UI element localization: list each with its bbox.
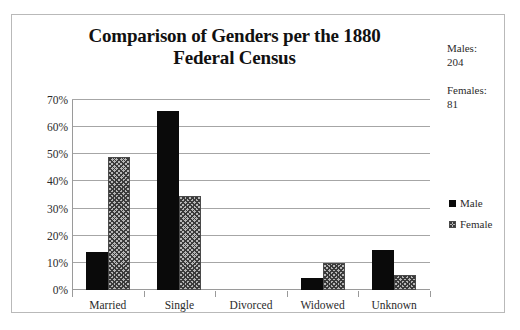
bar-unknown-male[interactable] [372, 250, 394, 290]
stat-females-value: 81 [447, 97, 517, 111]
chart-frame: Comparison of Genders per the 1880 Feder… [11, 14, 505, 313]
legend-swatch-male-icon [449, 200, 456, 207]
bar-group-widowed [287, 100, 359, 290]
x-axis-ticks [72, 291, 430, 297]
x-label-unknown: Unknown [372, 299, 417, 311]
bar-unknown-female[interactable] [394, 275, 416, 290]
y-tick-label-30: 30% [24, 203, 68, 215]
legend-item-female[interactable]: Female [449, 218, 515, 230]
y-tick-label-70: 70% [24, 94, 68, 106]
y-tick-label-50: 50% [24, 148, 68, 160]
x-tick-2 [215, 291, 216, 297]
y-tick-label-60: 60% [24, 121, 68, 133]
stat-males-value: 204 [447, 55, 517, 69]
stat-males: Males: 204 [447, 41, 517, 69]
bar-widowed-female[interactable] [323, 263, 345, 290]
bar-married-female[interactable] [108, 157, 130, 290]
bar-single-male[interactable] [157, 111, 179, 290]
x-tick-0 [72, 291, 73, 297]
stat-females-label: Females: [447, 83, 517, 97]
stat-females: Females: 81 [447, 83, 517, 111]
chart-legend: MaleFemale [449, 197, 515, 239]
x-tick-5 [430, 291, 431, 297]
x-label-single: Single [165, 299, 194, 311]
legend-label-female: Female [460, 218, 492, 230]
y-tick-label-0: 0% [24, 284, 68, 296]
x-axis-tick-labels: MarriedSingleDivorcedWidowedUnknown [72, 299, 430, 317]
y-tick-label-40: 40% [24, 175, 68, 187]
y-axis-tick-labels: 70%60%50%40%30%20%10%0% [22, 100, 68, 290]
x-label-married: Married [89, 299, 126, 311]
chart-title: Comparison of Genders per the 1880 Feder… [57, 25, 412, 69]
bar-single-female[interactable] [179, 196, 201, 290]
bar-widowed-male[interactable] [301, 278, 323, 290]
x-tick-4 [358, 291, 359, 297]
bars-layer [72, 100, 430, 290]
y-tick-label-20: 20% [24, 230, 68, 242]
x-tick-3 [287, 291, 288, 297]
legend-label-male: Male [460, 197, 483, 209]
side-stats-panel: Males: 204 Females: 81 [447, 41, 517, 125]
bar-group-single [144, 100, 216, 290]
chart-title-line-1: Comparison of Genders per the 1880 [88, 25, 380, 46]
bar-group-divorced [215, 100, 287, 290]
bar-group-unknown [358, 100, 430, 290]
y-tick-label-10: 10% [24, 257, 68, 269]
chart-title-line-2: Federal Census [173, 47, 295, 68]
legend-swatch-female-icon [449, 221, 456, 228]
x-label-divorced: Divorced [230, 299, 273, 311]
legend-item-male[interactable]: Male [449, 197, 515, 209]
bar-married-male[interactable] [86, 252, 108, 290]
bar-group-married [72, 100, 144, 290]
stat-males-label: Males: [447, 41, 517, 55]
x-label-widowed: Widowed [300, 299, 344, 311]
x-tick-1 [144, 291, 145, 297]
